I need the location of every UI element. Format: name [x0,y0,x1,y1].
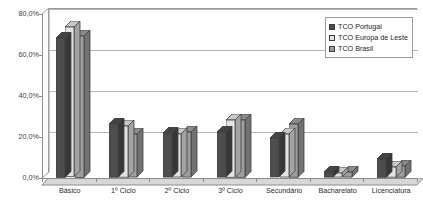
bar-shape [324,166,340,178]
x-axis-tick-label: 3º Ciclo [218,186,243,195]
bar-group [56,14,84,178]
x-axis-labels: Básico1º Ciclo2º Ciclo3º CicloSecundário… [42,186,417,202]
x-axis-tick-label: 1º Ciclo [111,186,136,195]
bar[interactable] [163,134,172,178]
bar[interactable] [109,125,118,178]
floor-shape [42,178,423,186]
y-axis-tick-label: 80,0% [19,10,39,18]
y-axis-tick-label: 40,0% [19,92,39,100]
y-axis-tick-label: 0,0% [23,174,39,182]
x-axis-tick [96,178,97,182]
bar[interactable] [56,39,65,178]
bar-group [217,14,245,178]
bar-shape [109,118,125,178]
x-axis-tick-label: Licenciatura [372,186,411,195]
x-axis-tick [363,178,364,182]
bar-group [109,14,137,178]
legend-item[interactable]: TCO Europa de Leste [329,32,408,43]
bar-chart: 0,0%20,0%40,0%60,0%80,0% Básico1º Ciclo2… [0,0,423,213]
legend-swatch-icon [329,46,335,52]
bar-group [163,14,191,178]
gridline [49,9,418,10]
bar[interactable] [217,133,226,178]
bar-shape [56,32,72,178]
x-axis-tick [149,178,150,182]
x-axis-tick [203,178,204,182]
y-axis-tick-label: 60,0% [19,51,39,59]
chart-legend: TCO PortugalTCO Europa de LesteTCO Brasi… [325,17,413,58]
bar-shape [377,153,393,178]
y-axis-tick-label: 20,0% [19,133,39,141]
legend-item-label: TCO Portugal [338,22,382,31]
bar-shape [217,126,233,178]
legend-item[interactable]: TCO Portugal [329,21,408,32]
bar[interactable] [377,160,386,178]
bar-shape [270,132,286,178]
x-axis-tick-label: 2º Ciclo [165,186,190,195]
x-axis [42,178,417,179]
y-axis-labels: 0,0%20,0%40,0%60,0%80,0% [0,0,39,213]
legend-item-label: TCO Europa de Leste [338,33,408,42]
legend-item[interactable]: TCO Brasil [329,43,408,54]
bar-shape [163,127,179,178]
x-axis-tick [417,178,418,182]
x-axis-tick [256,178,257,182]
x-axis-tick-label: Bacharelato [318,186,356,195]
x-axis-tick [42,178,43,182]
x-axis-tick-label: Secundário [266,186,302,195]
legend-item-label: TCO Brasil [338,44,373,53]
x-axis-tick [310,178,311,182]
bar[interactable] [324,173,333,178]
legend-swatch-icon [329,35,335,41]
x-axis-tick-label: Básico [59,186,81,195]
bar-group [270,14,298,178]
bar[interactable] [270,139,279,178]
legend-swatch-icon [329,24,335,30]
